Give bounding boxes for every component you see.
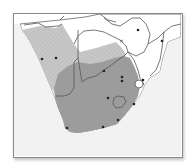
distribution-map: ×	[0, 0, 194, 167]
swaziland-outline	[135, 80, 143, 88]
x-marker: ×	[119, 37, 124, 44]
